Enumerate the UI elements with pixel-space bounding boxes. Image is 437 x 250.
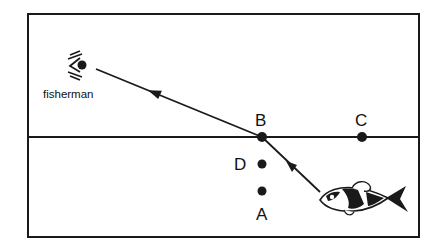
eye-icon xyxy=(68,51,87,80)
point-d xyxy=(258,160,267,169)
label-c: C xyxy=(355,111,367,130)
fish-icon xyxy=(320,182,408,215)
label-b: B xyxy=(255,111,266,130)
arrow-head-air-icon xyxy=(148,90,162,99)
label-d: D xyxy=(234,155,246,174)
ray-in-air xyxy=(96,69,262,137)
point-a xyxy=(258,187,267,196)
refraction-diagram: fisherman B C D A xyxy=(0,0,437,250)
point-c xyxy=(357,132,367,142)
label-a: A xyxy=(256,205,268,224)
fisherman-label: fisherman xyxy=(43,88,94,100)
arrow-head-water-icon xyxy=(286,161,297,172)
point-b xyxy=(257,132,267,142)
